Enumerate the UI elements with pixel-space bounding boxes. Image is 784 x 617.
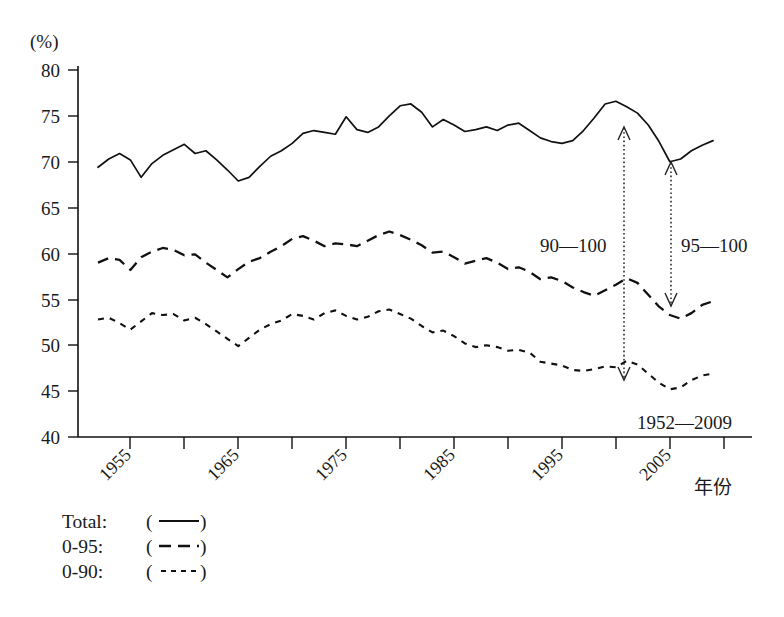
y-tick-label-40: 40 — [41, 427, 60, 448]
legend-paren-close-total: ) — [200, 511, 207, 533]
y-tick-label-70: 70 — [41, 152, 60, 173]
legend-paren-open-total: ( — [146, 511, 153, 533]
legend-label-0-95: 0-95: — [62, 536, 103, 557]
x-tick-label-1965: 1965 — [203, 445, 243, 485]
chart-figure: (%) 80 75 70 65 60 55 50 45 40 — [0, 0, 784, 617]
y-axis-unit-label: (%) — [30, 31, 58, 53]
x-tick-label-2005: 2005 — [635, 445, 675, 485]
legend-paren-close-0-90: ) — [200, 561, 207, 583]
x-tick-label-1975: 1975 — [311, 445, 351, 485]
annotation-arrow-95-100 — [665, 162, 677, 306]
y-tick-label-50: 50 — [41, 335, 60, 356]
y-tick-label-80: 80 — [41, 60, 60, 81]
y-tick-label-45: 45 — [41, 381, 60, 402]
x-tick-label-1955: 1955 — [95, 445, 135, 485]
x-axis-ticks — [130, 437, 724, 449]
annotation-label-95-100: 95—100 — [681, 235, 748, 256]
series-line-0-90 — [98, 309, 713, 389]
line-chart-svg: (%) 80 75 70 65 60 55 50 45 40 — [0, 0, 784, 617]
y-tick-label-55: 55 — [41, 290, 60, 311]
y-axis-ticks: 80 75 70 65 60 55 50 45 40 — [41, 60, 78, 448]
series-line-0-95 — [98, 231, 713, 318]
annotation-arrow-90-100 — [618, 127, 630, 380]
legend-paren-open-0-95: ( — [146, 536, 153, 558]
legend-label-0-90: 0-90: — [62, 561, 103, 582]
y-tick-label-60: 60 — [41, 244, 60, 265]
legend-label-total: Total: — [62, 511, 107, 532]
x-axis-tick-labels: 1955 1965 1975 1985 1995 2005 — [95, 445, 675, 485]
chart-legend: Total: ( ) 0-95: ( ) 0-90: ( ) — [62, 511, 207, 583]
series-line-total — [98, 101, 713, 181]
annotation-label-90-100: 90—100 — [540, 235, 607, 256]
x-tick-label-1995: 1995 — [527, 445, 567, 485]
x-tick-label-1985: 1985 — [419, 445, 459, 485]
annotation-label-period: 1952—2009 — [637, 412, 732, 433]
y-tick-label-75: 75 — [41, 106, 60, 127]
x-axis-title: 年份 — [694, 477, 732, 498]
arrow-head-down-95-100 — [665, 293, 677, 306]
legend-paren-open-0-90: ( — [146, 561, 153, 583]
y-tick-label-65: 65 — [41, 198, 60, 219]
legend-paren-close-0-95: ) — [200, 536, 207, 558]
